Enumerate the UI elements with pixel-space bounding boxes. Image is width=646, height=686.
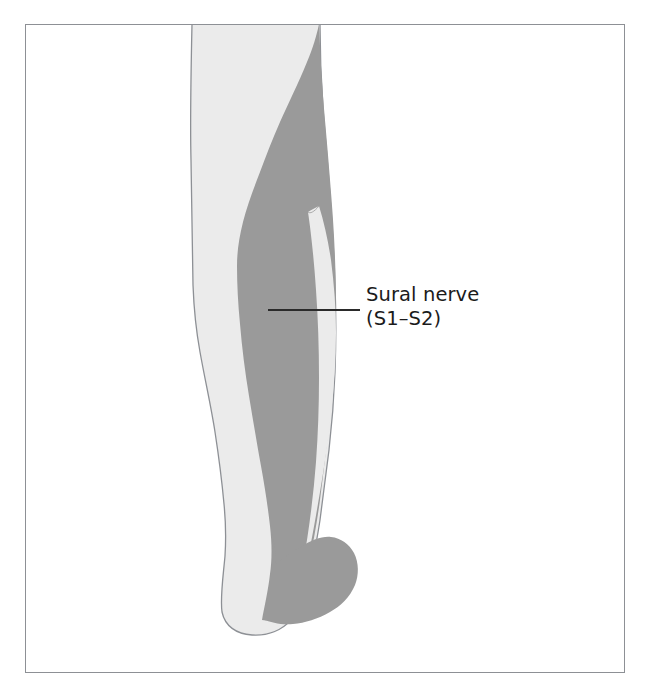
sural-nerve-label-line-1: Sural nerve — [366, 283, 479, 307]
sural-nerve-label: Sural nerve (S1–S2) — [366, 283, 479, 331]
anatomy-illustration — [0, 0, 646, 686]
sural-nerve-label-line-2: (S1–S2) — [366, 307, 479, 331]
figure-root: Sural nerve (S1–S2) — [0, 0, 646, 686]
